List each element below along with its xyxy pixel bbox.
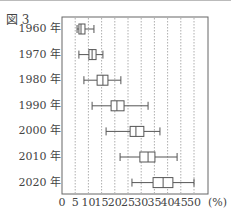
box-1990 [92, 101, 148, 111]
box-iqr [79, 24, 85, 34]
box-1970 [79, 50, 103, 60]
box-2000 [106, 126, 160, 136]
box-series [77, 24, 194, 188]
box-1980 [84, 75, 121, 85]
box-2010 [120, 152, 177, 162]
box-iqr [140, 152, 155, 162]
box-iqr [111, 101, 124, 111]
box-1960 [77, 24, 94, 34]
boxplot-chart [0, 0, 231, 216]
box-iqr [130, 126, 144, 136]
